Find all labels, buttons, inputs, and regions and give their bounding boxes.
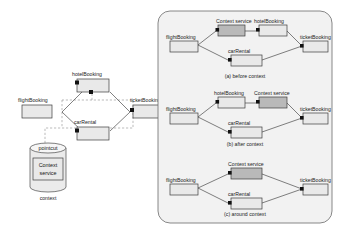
a-flight-label: flightBooking <box>166 34 196 40</box>
pointcut-dashed-link <box>45 128 62 143</box>
context-service-line2: service <box>39 170 56 176</box>
a-caption: (a) before context <box>225 73 266 79</box>
a-car-marker-left <box>228 58 232 62</box>
b-hotel-label: hotelBooking <box>214 90 244 96</box>
left-ticket-label: ticketBooking <box>130 97 161 103</box>
figure-canvas: flightBooking hotelBooking carRental tic… <box>0 0 337 234</box>
left-car-box <box>77 127 109 140</box>
left-car-marker-left <box>75 129 79 133</box>
b-caption: (b) after context <box>227 141 264 147</box>
left-ticket-marker-left <box>130 108 134 112</box>
c-flight-box <box>170 184 198 195</box>
a-hotel-label: hotelBooking <box>254 18 284 24</box>
c-flight-label: flightBooking <box>166 177 196 183</box>
a-context-marker-left <box>216 28 220 32</box>
b-flight-label: flightBooking <box>166 106 196 112</box>
left-hotel-marker-left <box>75 81 79 85</box>
a-flight-box <box>170 41 198 52</box>
b-ticket-label: ticketBooking <box>300 106 331 112</box>
b-car-marker-left <box>228 130 232 134</box>
b-car-label: carRental <box>228 120 250 126</box>
a-ticket-box <box>303 41 328 52</box>
c-car-marker-left <box>228 201 232 205</box>
left-flight-label: flightBooking <box>18 97 48 103</box>
c-car-label: carRental <box>228 191 250 197</box>
b-context-box <box>259 97 287 108</box>
edge-hotel-ticket <box>110 92 130 112</box>
context-caption: context <box>40 195 57 201</box>
b-hotel-marker-left <box>216 100 220 104</box>
b-ticket-marker-left <box>300 116 304 120</box>
left-diagram: flightBooking hotelBooking carRental tic… <box>18 71 165 201</box>
left-flight-box <box>22 105 52 118</box>
c-caption: (c) around context <box>224 211 266 217</box>
left-hotel-marker-bottom <box>89 90 93 94</box>
context-service-line1: Context <box>39 162 58 168</box>
left-car-label: carRental <box>74 119 96 125</box>
a-ticket-label: ticketBooking <box>300 34 331 40</box>
b-context-label: Context service <box>254 90 290 96</box>
b-ticket-box <box>303 113 328 124</box>
a-car-box <box>231 55 262 66</box>
left-hotel-label: hotelBooking <box>72 71 102 77</box>
c-ticket-box <box>303 184 328 195</box>
context-cylinder: pointcut Context service <box>30 143 66 192</box>
a-car-label: carRental <box>228 48 250 54</box>
a-context-box <box>218 25 245 36</box>
b-car-box <box>231 127 262 138</box>
b-context-marker-left <box>256 100 260 104</box>
b-flight-box <box>170 113 198 124</box>
edge-flight-hotel <box>62 92 82 112</box>
a-ticket-marker-left <box>300 44 304 48</box>
c-context-box <box>231 168 262 179</box>
c-car-box <box>231 198 262 209</box>
b-hotel-box <box>218 97 245 108</box>
c-ticket-label: ticketBooking <box>300 177 331 183</box>
a-hotel-marker-left <box>256 28 260 32</box>
a-context-label: Context service <box>216 18 252 24</box>
a-hotel-box <box>259 25 287 36</box>
c-context-marker-left <box>228 171 232 175</box>
pointcut-label: pointcut <box>39 145 58 151</box>
c-context-label: Context service <box>228 161 264 167</box>
c-ticket-marker-left <box>300 187 304 191</box>
